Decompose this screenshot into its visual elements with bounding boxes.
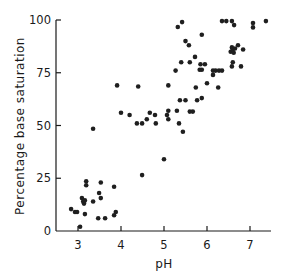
y-axis: 0255075100 [29, 13, 61, 238]
data-point [200, 33, 205, 38]
data-point [241, 47, 246, 52]
data-point [166, 117, 171, 122]
data-point [179, 60, 184, 65]
data-point [188, 60, 193, 65]
data-point [127, 113, 132, 118]
data-point [154, 121, 159, 126]
data-point [187, 43, 192, 48]
data-point [231, 50, 236, 55]
y-tick-label: 50 [36, 119, 51, 133]
x-axis-title: pH [155, 257, 173, 271]
data-point [232, 23, 237, 28]
data-point [195, 98, 200, 103]
data-point [91, 126, 96, 131]
data-point [83, 212, 88, 217]
data-point [191, 109, 196, 114]
data-point [83, 198, 88, 203]
data-point [176, 25, 181, 30]
y-tick-label: 25 [36, 171, 51, 185]
data-point [91, 199, 96, 204]
x-tick-label: 3 [74, 238, 81, 252]
data-point [178, 98, 183, 103]
data-point [216, 85, 221, 90]
data-point [115, 83, 120, 88]
data-point [203, 62, 208, 67]
data-point [112, 184, 117, 189]
data-point [166, 108, 171, 113]
data-point [114, 210, 119, 215]
data-point [251, 25, 256, 30]
data-point [177, 121, 182, 126]
data-point [239, 64, 244, 69]
x-ticks: 34567 [74, 226, 253, 252]
data-point [181, 130, 186, 135]
data-point [136, 84, 141, 89]
y-tick-label: 100 [29, 13, 51, 27]
data-point [162, 157, 167, 162]
data-point [264, 19, 269, 24]
data-point [84, 179, 89, 184]
data-point [69, 207, 74, 212]
data-point [205, 81, 210, 86]
data-point [198, 62, 203, 67]
data-point [119, 111, 124, 116]
data-point [99, 180, 104, 185]
data-point [140, 173, 145, 178]
data-point [153, 113, 158, 118]
data-point [148, 111, 153, 116]
data-points [69, 19, 268, 229]
x-tick-label: 6 [203, 238, 210, 252]
data-point [236, 43, 241, 48]
data-point [180, 20, 185, 25]
data-point [135, 121, 140, 126]
data-point [96, 216, 101, 221]
y-tick-label: 0 [44, 224, 51, 238]
data-point [145, 117, 150, 122]
data-point [97, 191, 102, 196]
data-point [165, 113, 170, 118]
x-tick-label: 5 [160, 238, 167, 252]
data-point [200, 68, 205, 73]
data-point [166, 83, 171, 88]
data-point [230, 19, 235, 24]
data-point [173, 68, 178, 73]
y-axis-title: Percentage base saturation [13, 37, 27, 215]
data-point [183, 98, 188, 103]
data-point [140, 121, 145, 126]
data-point [200, 96, 205, 101]
data-point [251, 21, 256, 26]
data-point [99, 196, 104, 201]
y-tick-label: 75 [36, 66, 51, 80]
data-point [183, 39, 188, 44]
data-point [193, 55, 198, 60]
data-point [75, 210, 80, 215]
x-tick-label: 7 [246, 238, 253, 252]
data-point [211, 73, 216, 78]
data-point [84, 183, 89, 188]
data-point [194, 85, 199, 90]
scatter-chart: 0255075100 34567 pH Percentage base satu… [0, 0, 292, 280]
data-point [78, 225, 83, 230]
data-point [103, 216, 108, 221]
x-tick-label: 4 [117, 238, 124, 252]
data-point [231, 60, 236, 65]
data-point [230, 64, 235, 69]
data-point [220, 19, 225, 24]
data-point [224, 19, 229, 24]
data-point [220, 68, 225, 73]
x-axis: 34567 [56, 226, 271, 252]
data-point [175, 108, 180, 113]
